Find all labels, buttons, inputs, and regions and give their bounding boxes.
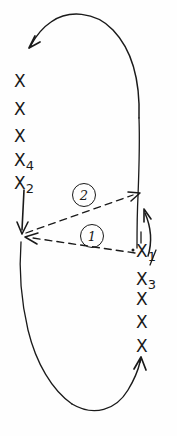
loop-top-arc xyxy=(31,14,139,118)
loop-arrow-top-left-head xyxy=(29,36,40,48)
vertical-arrow-left-shaft xyxy=(22,190,24,230)
right-mark-0-subscript: 1 xyxy=(148,249,156,264)
right-mark-1-subscript: 3 xyxy=(148,277,156,292)
left-mark-4: X2 xyxy=(14,175,34,192)
left-mark-3-symbol: X xyxy=(14,150,26,170)
left-mark-0-symbol: X xyxy=(14,71,26,91)
left-mark-1: X xyxy=(14,101,26,118)
left-mark-0: X xyxy=(14,73,26,90)
right-mark-4: X xyxy=(136,338,148,355)
left-mark-4-subscript: 2 xyxy=(26,181,34,196)
left-mark-2: X xyxy=(14,128,26,145)
left-mark-1-symbol: X xyxy=(14,99,26,119)
left-mark-3-subscript: 4 xyxy=(26,158,34,173)
diagram-canvas xyxy=(0,0,177,436)
right-mark-0-symbol: X xyxy=(136,241,148,261)
loop-right-edge xyxy=(137,118,139,248)
left-mark-3: X4 xyxy=(14,152,34,169)
left-mark-2-symbol: X xyxy=(14,126,26,146)
right-mark-3-symbol: X xyxy=(136,312,148,332)
right-mark-4-symbol: X xyxy=(136,336,148,356)
right-mark-2: X xyxy=(136,291,148,308)
annotation-circle-one: 1 xyxy=(80,224,104,248)
right-mark-3: X xyxy=(136,314,148,331)
annotation-circle-two: 2 xyxy=(72,183,96,207)
annotation-circle-one-label: 1 xyxy=(88,229,96,244)
right-mark-1: X3 xyxy=(136,271,156,288)
left-mark-4-symbol: X xyxy=(14,173,26,193)
right-mark-0: X1 xyxy=(136,243,156,260)
annotation-circle-two-label: 2 xyxy=(80,188,88,203)
loop-bottom-arc xyxy=(72,362,140,411)
right-mark-2-symbol: X xyxy=(136,289,148,309)
point-dot-x1 xyxy=(132,249,135,252)
figure-root: X X X X4 X2 X1 X3 X X X 2 1 xyxy=(0,0,177,436)
right-mark-1-symbol: X xyxy=(136,269,148,289)
loop-left-edge xyxy=(20,242,72,404)
